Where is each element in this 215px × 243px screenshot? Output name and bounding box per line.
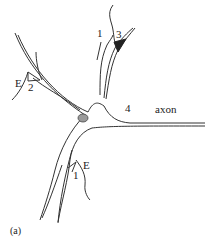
axon-lower-edge <box>92 126 205 128</box>
nucleus <box>78 114 88 122</box>
label-axon: axon <box>155 104 176 115</box>
label-synapse-1-bottom: 1 <box>73 170 79 181</box>
synapse-terminal-3 <box>114 39 126 52</box>
cell-body-left-edge <box>40 115 85 220</box>
label-excitatory-left: E <box>15 78 22 89</box>
neuron-diagram: 1 3 E 2 4 axon E 1 (a) <box>0 0 215 243</box>
neuron-drawing <box>0 0 215 243</box>
label-synapse-1-top: 1 <box>97 28 103 39</box>
label-excitatory-bottom: E <box>83 160 90 171</box>
cell-body-upper-left-edge <box>88 103 104 112</box>
label-synapse-4: 4 <box>125 103 131 114</box>
incoming-fiber-1-top <box>97 42 101 60</box>
label-synapse-2: 2 <box>28 82 34 93</box>
dendrite-upper-left-outer <box>15 33 85 115</box>
panel-label: (a) <box>10 226 21 236</box>
label-synapse-3: 3 <box>116 29 122 40</box>
dendrite-left-branch-2 <box>33 78 80 110</box>
dendrite-top-outer <box>100 35 113 95</box>
